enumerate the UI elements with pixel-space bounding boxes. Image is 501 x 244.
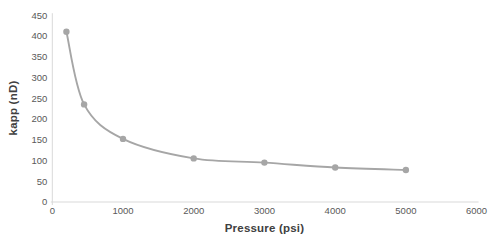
y-tick-label: 100 [31, 155, 47, 166]
y-tick-label: 350 [31, 51, 47, 62]
data-point-marker [403, 167, 409, 173]
y-tick-label: 400 [31, 30, 47, 41]
x-tick-label: 5000 [395, 205, 416, 216]
x-tick-label: 3000 [254, 205, 275, 216]
plot-area: 0501001502002503003504004500100020003000… [0, 0, 501, 244]
y-tick-label: 150 [31, 134, 47, 145]
x-tick-label: 1000 [112, 205, 133, 216]
data-point-marker [261, 159, 267, 165]
x-axis-title: Pressure (psi) [52, 222, 477, 234]
x-tick-label: 6000 [466, 205, 487, 216]
chart: 0501001502002503003504004500100020003000… [0, 0, 501, 244]
data-point-marker [191, 155, 197, 161]
data-point-marker [63, 29, 69, 35]
x-tick-label: 0 [50, 205, 55, 216]
data-point-marker [81, 101, 87, 107]
x-tick-label: 4000 [325, 205, 346, 216]
y-tick-label: 200 [31, 113, 47, 124]
y-axis-title: kapp (nD) [7, 81, 19, 136]
series-line [66, 32, 406, 170]
data-point-marker [120, 136, 126, 142]
x-tick-label: 2000 [183, 205, 204, 216]
y-tick-label: 50 [37, 176, 48, 187]
y-tick-label: 0 [42, 196, 47, 207]
y-tick-label: 450 [31, 10, 47, 21]
data-point-marker [332, 164, 338, 170]
y-tick-label: 250 [31, 93, 47, 104]
y-tick-label: 300 [31, 72, 47, 83]
